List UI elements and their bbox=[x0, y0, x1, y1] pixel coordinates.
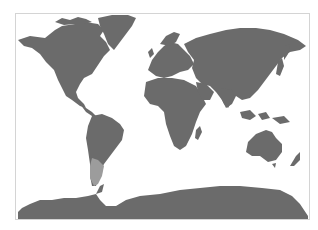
southeast-asia-islands bbox=[240, 110, 290, 124]
india bbox=[220, 88, 234, 108]
new-zealand bbox=[290, 152, 300, 166]
madagascar bbox=[195, 126, 202, 140]
world-map bbox=[15, 13, 310, 220]
antarctic-peninsula bbox=[96, 184, 104, 194]
tasmania bbox=[272, 163, 276, 168]
continent-north-america bbox=[18, 22, 110, 108]
continent-africa bbox=[144, 78, 206, 150]
continent-australia bbox=[246, 130, 282, 162]
map-frame bbox=[15, 13, 310, 220]
central-america bbox=[80, 104, 96, 116]
continent-antarctica bbox=[18, 186, 308, 220]
british-isles bbox=[148, 48, 154, 58]
